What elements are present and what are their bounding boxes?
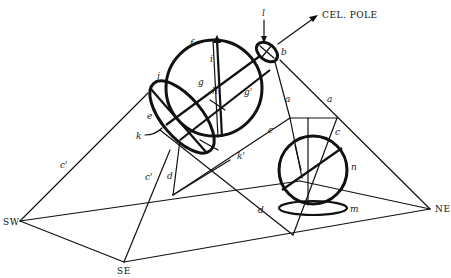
label-l: l bbox=[262, 8, 265, 18]
line-d-long bbox=[160, 130, 293, 235]
label-ne: NE bbox=[435, 204, 450, 214]
label-c-prime2: c' bbox=[145, 172, 153, 182]
label-a2: a bbox=[327, 94, 332, 104]
label-k: k bbox=[136, 131, 141, 141]
label-e: e bbox=[147, 111, 152, 121]
label-n: n bbox=[351, 162, 357, 172]
arrow-cel-pole bbox=[278, 15, 318, 44]
line-d-vertical bbox=[173, 140, 180, 195]
label-i: i bbox=[210, 54, 213, 64]
edge-se-up bbox=[124, 150, 170, 262]
ground-plane bbox=[20, 181, 430, 262]
line-d-diag bbox=[173, 160, 230, 195]
label-b: b bbox=[281, 47, 287, 57]
label-sw: SW bbox=[3, 217, 20, 227]
label-c-prime1: c' bbox=[60, 160, 68, 170]
label-m: m bbox=[350, 204, 359, 214]
label-j: j bbox=[155, 71, 160, 81]
label-k-prime: k' bbox=[237, 151, 245, 161]
label-h: h bbox=[212, 86, 218, 96]
label-d1: d bbox=[167, 171, 173, 181]
edge-sw-se bbox=[20, 221, 124, 262]
celestial-sphere-diagram: CEL. POLE SW SE NE a a b c c c' c' d d e… bbox=[0, 0, 451, 278]
label-se: SE bbox=[117, 266, 131, 276]
label-d2: d bbox=[258, 205, 264, 215]
line-h bbox=[210, 100, 225, 110]
label-c2: c bbox=[335, 127, 340, 137]
edge-pole-ne bbox=[280, 60, 430, 209]
arrow-cel-pole-shaft bbox=[278, 18, 314, 44]
label-g-prime: g' bbox=[244, 87, 252, 97]
arrow-l bbox=[261, 20, 267, 43]
small-sphere bbox=[279, 136, 347, 215]
ring-b bbox=[253, 38, 282, 66]
edge-se-ne bbox=[124, 209, 430, 262]
edge-sw-center bbox=[20, 181, 300, 221]
labels: CEL. POLE SW SE NE a a b c c c' c' d d e… bbox=[3, 8, 450, 276]
label-c1: c bbox=[268, 125, 273, 135]
edge-sw-apex bbox=[20, 93, 148, 221]
label-g: g bbox=[198, 77, 204, 87]
small-sphere-line bbox=[295, 145, 301, 170]
pyramid-lines bbox=[20, 60, 430, 262]
sphere-n-outline bbox=[279, 136, 347, 204]
label-cel-pole: CEL. POLE bbox=[322, 10, 378, 20]
label-a1: a bbox=[285, 94, 290, 104]
leader-k bbox=[145, 128, 162, 135]
line-a-left bbox=[275, 62, 290, 118]
